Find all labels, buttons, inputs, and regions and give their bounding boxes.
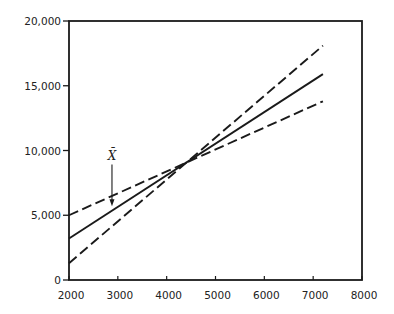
chart: 05,00010,00015,00020,000 200030004000500… bbox=[0, 0, 394, 314]
x-tick-label: 2000 bbox=[58, 289, 85, 301]
x-tick-label: 6000 bbox=[253, 289, 280, 301]
y-tick-label: 5,000 bbox=[31, 209, 61, 221]
y-tick-label: 0 bbox=[54, 274, 61, 286]
y-tick-label: 15,000 bbox=[24, 80, 61, 92]
y-tick-label: 10,000 bbox=[24, 145, 61, 157]
xbar-annotation: X̄ bbox=[107, 147, 117, 206]
arrow-down-icon bbox=[109, 199, 114, 206]
x-tick-label: 7000 bbox=[302, 289, 329, 301]
x-tick-label: 8000 bbox=[351, 289, 378, 301]
x-tick-label: 4000 bbox=[155, 289, 182, 301]
x-tick-label: 3000 bbox=[106, 289, 133, 301]
x-tick-label: 5000 bbox=[204, 289, 231, 301]
xbar-label: X̄ bbox=[107, 147, 117, 162]
y-tick-label: 20,000 bbox=[24, 15, 61, 27]
y-axis: 05,00010,00015,00020,000 bbox=[24, 15, 69, 286]
